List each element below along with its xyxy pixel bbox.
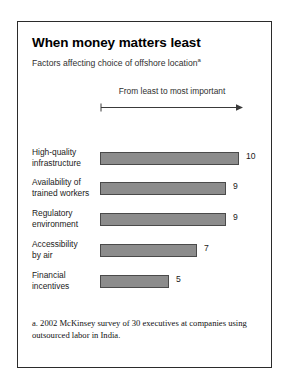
bar-rect — [100, 244, 197, 257]
bar-label-line-2: incentives — [32, 281, 98, 292]
bar-label-line-2: by air — [32, 250, 98, 261]
bar-row-availability-of-trained-workers: Availability of trained workers 9 — [18, 181, 272, 211]
bar-rect — [100, 213, 226, 226]
exhibit-panel: When money matters least Factors affecti… — [17, 21, 272, 368]
bar-label: Accessibility by air — [32, 239, 98, 260]
bar-label: Regulatory environment — [32, 208, 98, 229]
bar-label-line-2: infrastructure — [32, 158, 98, 169]
bar-rect — [100, 152, 239, 165]
bar-value-label: 7 — [204, 243, 209, 253]
bar-label-line-1: Accessibility — [32, 239, 98, 250]
bar-value-label: 9 — [233, 181, 238, 191]
bar-value-label: 9 — [233, 212, 238, 222]
bar-chart-plot: High-quality infrastructure 10 Availabil… — [18, 22, 272, 368]
footnote: a. 2002 McKinsey survey of 30 executives… — [32, 318, 250, 341]
bar-value-label: 5 — [176, 274, 181, 284]
bar-label: Financial incentives — [32, 270, 98, 291]
bar-label-line-2: trained workers — [32, 188, 98, 199]
bar-row-regulatory-environment: Regulatory environment 9 — [18, 212, 272, 242]
bar-label: Availability of trained workers — [32, 177, 98, 198]
bar-label-line-1: High-quality — [32, 147, 98, 158]
bar-row-financial-incentives: Financial incentives 5 — [18, 274, 272, 304]
bar-label: High-quality infrastructure — [32, 147, 98, 168]
bar-label-line-2: environment — [32, 219, 98, 230]
bar-value-label: 10 — [246, 151, 256, 161]
bar-label-line-1: Availability of — [32, 177, 98, 188]
bar-rect — [100, 275, 169, 288]
bar-label-line-1: Regulatory — [32, 208, 98, 219]
bar-label-line-1: Financial — [32, 270, 98, 281]
bar-row-accessibility-by-air: Accessibility by air 7 — [18, 243, 272, 273]
bar-rect — [100, 182, 226, 195]
